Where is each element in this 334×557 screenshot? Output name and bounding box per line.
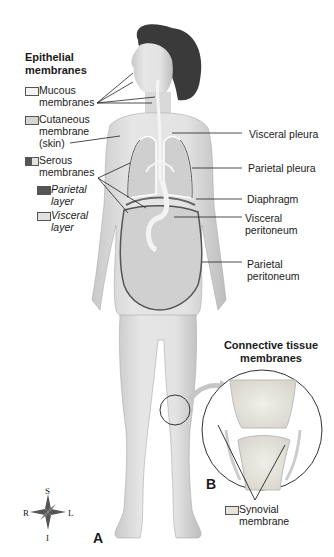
label-diaphragm: Diaphragm <box>247 193 298 205</box>
legend-visceral: Viscerallayer <box>51 209 88 233</box>
panel-a-label: A <box>93 532 103 544</box>
parietal-swatch <box>37 186 51 195</box>
legend-serous: Serousmembranes <box>39 154 94 178</box>
inset-title: Connective tissuemembranes <box>216 339 326 365</box>
legend-cutaneous: Cutaneousmembrane(skin) <box>39 113 90 149</box>
label-visceral-peritoneum: Visceralperitoneum <box>245 212 298 236</box>
panel-b-label: B <box>206 478 216 490</box>
label-parietal-pleura: Parietal pleura <box>248 162 316 174</box>
compass-inferior: I <box>46 532 49 544</box>
compass-superior: S <box>45 485 50 497</box>
legend-parietal: Parietallayer <box>51 183 87 207</box>
mucous-swatch <box>25 87 39 96</box>
membranes-diagram: Epithelialmembranes Mucousmembranes Cuta… <box>0 0 334 557</box>
label-visceral-pleura: Visceral pleura <box>249 128 318 140</box>
visceral-swatch <box>37 212 51 221</box>
legs <box>115 315 201 538</box>
synovial-swatch <box>225 506 239 515</box>
serous-swatch <box>25 157 39 166</box>
compass-rose-icon <box>30 494 66 530</box>
compass-left: L <box>68 507 74 519</box>
peritoneal-cavity <box>120 206 202 310</box>
label-parietal-peritoneum: Parietalperitoneum <box>247 258 300 282</box>
label-synovial-membrane: Synovialmembrane <box>239 503 289 527</box>
compass-right: R <box>23 507 29 519</box>
legend-mucous: Mucousmembranes <box>39 84 94 108</box>
cutaneous-swatch <box>25 116 39 125</box>
legend-title: Epithelialmembranes <box>25 51 87 77</box>
